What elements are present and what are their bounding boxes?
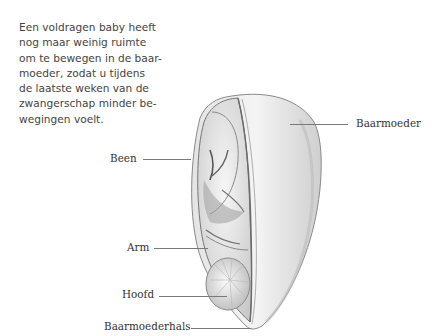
uterus-fetus-illustration bbox=[0, 0, 438, 336]
leader-line-leg bbox=[143, 159, 191, 160]
label-cervix: Baarmoederhals bbox=[104, 320, 191, 332]
leader-line-uterus bbox=[290, 124, 348, 125]
label-head: Hoofd bbox=[122, 288, 154, 300]
leader-line-cervix bbox=[191, 328, 251, 329]
leader-line-head bbox=[159, 296, 227, 297]
fetus-head bbox=[206, 258, 250, 310]
label-leg: Been bbox=[110, 152, 137, 164]
label-uterus: Baarmoeder bbox=[356, 117, 421, 129]
leader-line-arm bbox=[154, 248, 208, 249]
label-arm: Arm bbox=[127, 241, 149, 253]
